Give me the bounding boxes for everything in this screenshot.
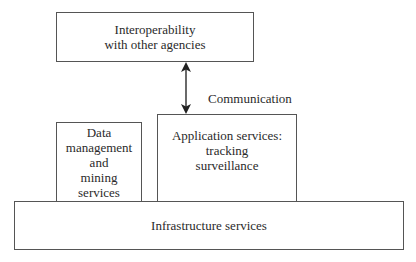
interoperability-box: Interoperability with other agencies (56, 12, 254, 62)
application-label-line-1: Application services: (172, 128, 282, 143)
application-label-line-3: surveillance (196, 158, 259, 173)
infrastructure-services-box: Infrastructure services (14, 201, 404, 250)
interoperability-label-line-1: Interoperability (115, 22, 196, 37)
data-label-line-4: mining (81, 170, 118, 185)
data-label-line-1: Data (87, 125, 112, 140)
data-label-line-3: and (90, 155, 109, 170)
infrastructure-label: Infrastructure services (151, 218, 267, 233)
data-label-line-2: management (66, 140, 132, 155)
data-management-box: Data management and mining services (56, 122, 142, 202)
application-services-box: Application services: tracking surveilla… (157, 114, 297, 202)
data-label-line-5: services (78, 185, 120, 200)
communication-label: Communication (208, 91, 292, 107)
application-label-line-2: tracking (206, 143, 249, 158)
double-arrow-icon (178, 61, 194, 115)
interoperability-label-line-2: with other agencies (104, 37, 205, 52)
